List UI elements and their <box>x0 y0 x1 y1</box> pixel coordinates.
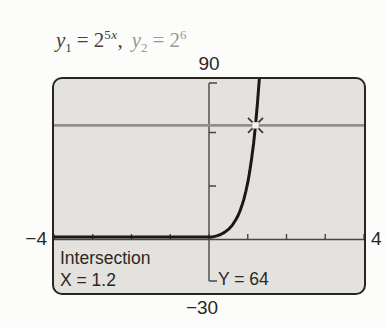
y1-exponent: 5x <box>104 27 117 42</box>
xmax-label: 4 <box>371 228 382 250</box>
y2-variable: y <box>132 28 141 52</box>
y-readout: Y = 64 <box>218 269 269 291</box>
equation-separator-comma: , <box>117 28 122 52</box>
equation-y2: y2=26 <box>132 28 187 52</box>
calculator-screen: Intersection X = 1.2 Y = 64 <box>52 77 366 295</box>
y1-curve <box>54 79 261 237</box>
y2-equals-sign: = <box>153 28 165 52</box>
y2-exponent-number: 6 <box>180 27 187 42</box>
y2-base: 2 <box>169 28 180 52</box>
ymax-label: 90 <box>198 53 219 75</box>
y1-equals-sign: = <box>77 28 89 52</box>
intersection-marker-center <box>252 122 258 128</box>
xmin-label: −4 <box>20 228 47 250</box>
y2-exponent: 6 <box>180 27 187 42</box>
ymin-label: −30 <box>186 297 218 319</box>
x-readout: X = 1.2 <box>60 270 150 292</box>
y2-subscript: 2 <box>141 40 148 55</box>
intersection-readout: Intersection X = 1.2 <box>60 248 150 291</box>
y1-subscript: 1 <box>65 40 72 55</box>
equation-header: y1=25x,y2=26 <box>56 22 187 61</box>
y1-base: 2 <box>94 28 105 52</box>
equation-y1: y1=25x, <box>56 28 123 52</box>
calculator-intersection-figure: y1=25x,y2=26 90 −4 4 −30 Intersection X … <box>0 0 386 329</box>
y1-variable: y <box>56 28 65 52</box>
intersection-title: Intersection <box>60 248 150 270</box>
